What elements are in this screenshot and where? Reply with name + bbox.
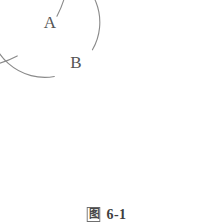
- inner-circle: [0, 0, 100, 77]
- figure-container: A B 图 6-1: [0, 0, 213, 223]
- figure-caption: 图 6-1: [0, 207, 213, 223]
- caption-prefix: 图: [87, 207, 101, 222]
- region-label-a: A: [44, 13, 57, 32]
- concentric-circles-diagram: A B: [0, 0, 213, 223]
- caption-number: 6-1: [106, 207, 126, 222]
- region-label-b: B: [70, 53, 81, 72]
- outer-circle: [0, 0, 68, 67]
